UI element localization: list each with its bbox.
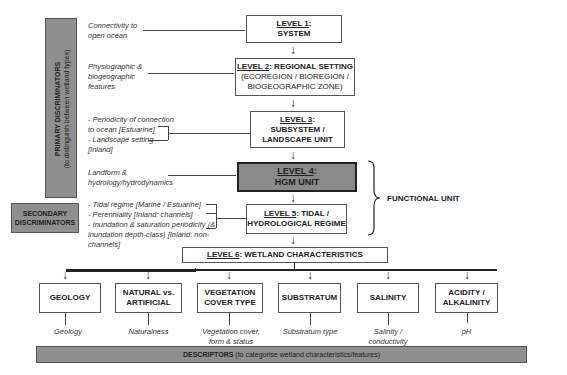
level5-label: LEVEL 5 — [264, 209, 296, 218]
level1-box: LEVEL 1: SYSTEM — [246, 15, 342, 43]
level2-label: LEVEL 2 — [237, 62, 269, 71]
connector-level2 — [148, 73, 234, 74]
descriptors-title: DESCRIPTORS — [183, 351, 233, 358]
connector-level5-bracket-mid — [206, 213, 216, 214]
level4-note: Landform &hydrology/hydrodynamics — [88, 168, 173, 188]
distribution-line-main — [66, 269, 497, 271]
level2-subtitle-2: BIOGEOGRAPHIC ZONE) — [247, 82, 342, 92]
arrow-5-6: ↓ — [290, 235, 296, 245]
stem-acidity — [467, 313, 468, 323]
connector-level5-bracket — [216, 204, 217, 228]
stem-natural — [148, 313, 149, 325]
char-natural-title-1: NATURAL vs. — [123, 288, 174, 298]
char-vegetation-title-1: VEGETATION — [205, 288, 256, 298]
connector-level3-bracket-top — [158, 126, 168, 127]
primary-discriminators-subtitle: (to distinguish between wetland types) — [62, 19, 71, 199]
level5-note: - Tidal regime [Marine / Estuarine]- Per… — [88, 200, 215, 250]
level2-title: REGIONAL SETTING — [274, 62, 353, 71]
arrow-salinity: ↓ — [385, 270, 391, 280]
arrow-substratum: ↓ — [307, 270, 313, 280]
level3-box: LEVEL 3: SUBSYSTEM / LANDSCAPE UNIT — [250, 111, 345, 148]
level1-label: LEVEL 1 — [277, 19, 309, 28]
stem-vegetation — [229, 313, 230, 325]
level1-title: SYSTEM — [278, 29, 311, 39]
functional-unit-brace-icon — [366, 160, 386, 236]
level3-title-2: LANDSCAPE UNIT — [262, 135, 333, 145]
primary-discriminators-bar: PRIMARY DISCRIMINATORS (to distinguish b… — [45, 18, 77, 198]
arrow-natural: ↓ — [145, 270, 151, 280]
descriptors-bar: DESCRIPTORS (to categorise wetland chara… — [36, 346, 527, 363]
arrow-acidity: ↓ — [464, 270, 470, 280]
level6-title: WETLAND CHARACTERISTICS — [244, 250, 363, 259]
level5-title-2: HYDROLOGICAL REGIME — [247, 219, 346, 229]
descriptors-subtitle: (to categorise wetland characteristics/f… — [235, 351, 380, 358]
char-substratum-title: SUBSTRATUM — [282, 293, 337, 303]
char-box-natural-artificial: NATURAL vs. ARTIFICIAL — [115, 283, 182, 313]
connector-level3-bracket-bottom — [148, 140, 168, 141]
level3-title-1: SUBSYSTEM / — [270, 125, 324, 135]
char-box-substratum: SUBSTRATUM — [278, 283, 341, 313]
char-vegetation-title-2: COVER TYPE — [204, 298, 256, 308]
descriptor-naturalness: Naturalness — [115, 327, 182, 337]
connector-level1 — [143, 30, 245, 31]
level4-label: LEVEL 4 — [277, 166, 313, 176]
char-salinity-title: SALINITY — [370, 293, 406, 303]
level2-subtitle-1: (ECOREGION / BIOREGION / — [241, 72, 349, 82]
level6-stem — [294, 263, 295, 269]
arrow-4-5: ↓ — [290, 193, 296, 203]
descriptor-vegetation: Vegetation cover,form & status — [195, 327, 267, 347]
arrow-geology: ↓ — [62, 270, 68, 280]
stem-geology — [65, 313, 66, 325]
level5-box: LEVEL 5: TIDAL / HYDROLOGICAL REGIME — [246, 204, 347, 234]
connector-level3 — [168, 133, 250, 134]
level2-note: Physiographic &biogeographicfeatures — [88, 62, 142, 92]
char-acidity-title-2: ALKALINITY — [443, 298, 491, 308]
arrow-3-4: ↓ — [290, 150, 296, 160]
connector-level5 — [216, 218, 246, 219]
stem-substratum — [310, 313, 311, 325]
char-geology-title: GEOLOGY — [50, 293, 90, 303]
connector-level5-bracket-bottom — [206, 228, 216, 229]
level5-title-1: TIDAL / — [301, 209, 329, 218]
primary-discriminators-title: PRIMARY DISCRIMINATORS — [53, 19, 62, 199]
arrow-2-3: ↓ — [290, 98, 296, 108]
secondary-discriminators-box: SECONDARY DISCRIMINATORS — [11, 203, 79, 233]
secondary-discriminators-line1: SECONDARY — [23, 209, 67, 218]
descriptor-salinity: Salinity /conductivity — [357, 327, 419, 347]
char-box-geology: GEOLOGY — [39, 283, 101, 313]
level6-box: LEVEL 6: WETLAND CHARACTERISTICS — [182, 247, 388, 263]
level2-box: LEVEL 2: REGIONAL SETTING (ECOREGION / B… — [235, 58, 355, 96]
arrow-vegetation: ↓ — [226, 270, 232, 280]
descriptor-geology: Geology — [35, 327, 101, 337]
functional-unit-label: FUNCTIONAL UNIT — [387, 194, 460, 203]
level4-title: HGM UNIT — [275, 177, 320, 188]
level1-note: Connectivity toopen ocean — [88, 21, 137, 41]
primary-discriminators-label: PRIMARY DISCRIMINATORS (to distinguish b… — [53, 19, 71, 199]
stem-salinity — [388, 313, 389, 325]
arrow-1-2: ↓ — [290, 45, 296, 55]
char-acidity-title-1: ACIDITY / — [448, 288, 484, 298]
level3-note: - Periodicity of connectionto ocean [Est… — [88, 115, 174, 155]
secondary-discriminators-line2: DISCRIMINATORS — [15, 218, 75, 227]
level6-label: LEVEL 6 — [207, 250, 239, 259]
level3-label: LEVEL 3 — [280, 115, 312, 124]
descriptor-ph: pH — [435, 327, 498, 337]
descriptor-substratum: Substratum type — [275, 327, 345, 337]
level4-box: LEVEL 4: HGM UNIT — [237, 162, 357, 192]
char-box-salinity: SALINITY — [357, 283, 419, 313]
char-box-vegetation: VEGETATION COVER TYPE — [197, 283, 263, 313]
char-natural-title-2: ARTIFICIAL — [126, 298, 170, 308]
connector-level4 — [168, 175, 236, 176]
char-box-acidity: ACIDITY / ALKALINITY — [435, 283, 498, 313]
connector-level5-bracket-top — [206, 204, 216, 205]
